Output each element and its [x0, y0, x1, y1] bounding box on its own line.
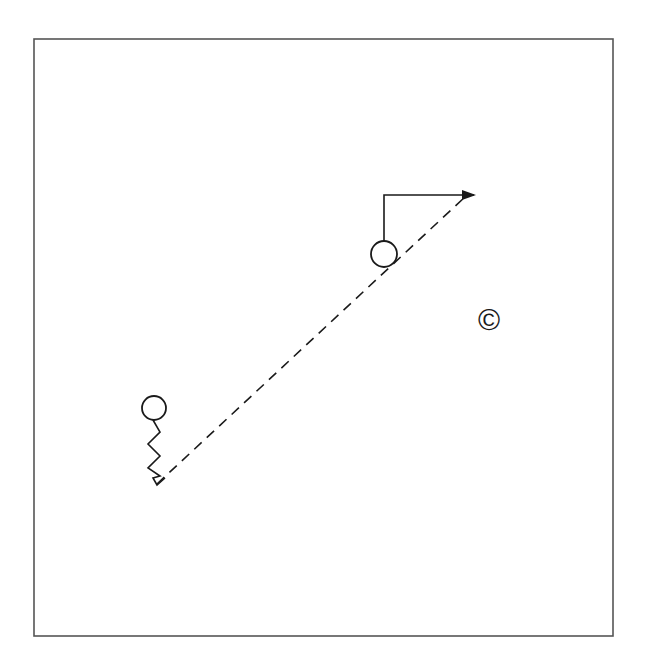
player-circle-lower-left: [142, 396, 166, 420]
copyright-symbol: ©: [478, 305, 500, 335]
dashed-pass-line: [157, 197, 465, 484]
play-diagram: [0, 0, 646, 665]
player-circle-upper-right: [371, 241, 397, 267]
zigzag-motion-path: [148, 420, 165, 485]
diagram-frame: [34, 39, 613, 636]
